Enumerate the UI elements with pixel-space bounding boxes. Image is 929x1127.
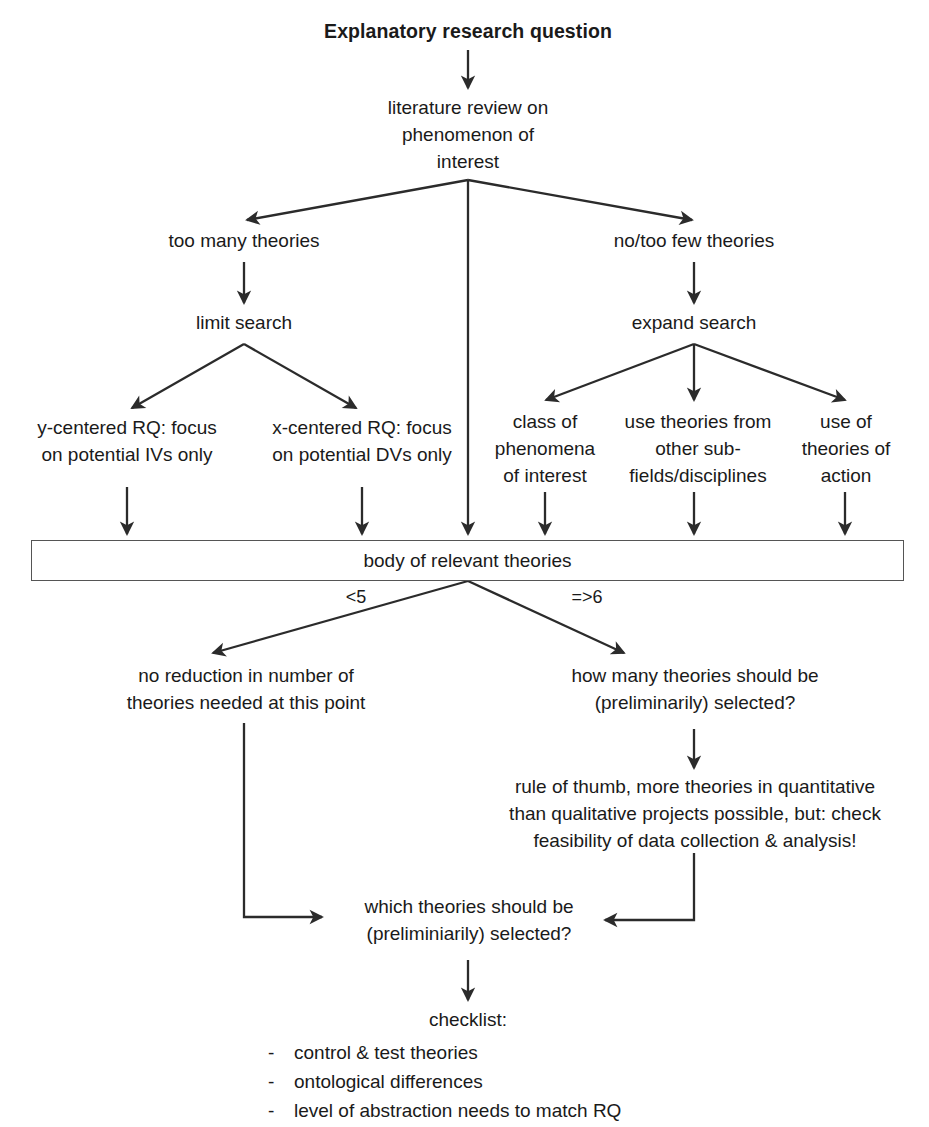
checklist-item-label: ontological differences bbox=[294, 1067, 483, 1096]
edge-no-reduction-to-which-theories bbox=[244, 723, 322, 917]
edge-expand-search-to-class-of-phenomena bbox=[546, 344, 694, 400]
node-theories-of-action: use of theories of action bbox=[783, 408, 909, 489]
node-body-of-relevant-theories: body of relevant theories bbox=[31, 540, 904, 581]
checklist-items: - control & test theories - ontological … bbox=[268, 1038, 698, 1125]
bullet-dash: - bbox=[268, 1067, 294, 1096]
checklist-item: - level of abstraction needs to match RQ bbox=[268, 1096, 698, 1125]
bullet-dash: - bbox=[268, 1038, 294, 1067]
node-too-many-theories: too many theories bbox=[134, 227, 354, 254]
edge-label-six-or-more: =>6 bbox=[557, 586, 617, 608]
edge-litreview-to-too-many bbox=[247, 180, 468, 220]
edge-limit-search-to-x-centered bbox=[244, 344, 356, 408]
flowchart-canvas: Explanatory research question literature… bbox=[0, 0, 929, 1127]
body-of-theories-label: body of relevant theories bbox=[32, 549, 903, 573]
edge-rule-of-thumb-to-which-theories bbox=[605, 853, 694, 920]
checklist-item: - control & test theories bbox=[268, 1038, 698, 1067]
node-no-too-few-theories: no/too few theories bbox=[584, 227, 804, 254]
edge-litreview-to-no-too-few bbox=[468, 180, 692, 220]
checklist-item-label: control & test theories bbox=[294, 1038, 478, 1067]
node-limit-search: limit search bbox=[154, 309, 334, 336]
node-class-of-phenomena: class of phenomena of interest bbox=[476, 408, 614, 489]
node-which-theories-selected: which theories should be (preliminiarily… bbox=[330, 893, 608, 947]
checklist-item-label: level of abstraction needs to match RQ bbox=[294, 1096, 621, 1125]
node-how-many-theories: how many theories should be (preliminari… bbox=[540, 662, 850, 716]
bullet-dash: - bbox=[268, 1096, 294, 1125]
checklist-item: - ontological differences bbox=[268, 1067, 698, 1096]
node-rule-of-thumb: rule of thumb, more theories in quantita… bbox=[474, 773, 916, 854]
node-other-subfields: use theories from other sub- fields/disc… bbox=[616, 408, 780, 489]
edge-label-less-than-five: <5 bbox=[326, 586, 386, 608]
node-x-centered-rq: x-centered RQ: focus on potential DVs on… bbox=[248, 414, 476, 468]
edge-limit-search-to-y-centered bbox=[132, 344, 244, 408]
node-root-question: Explanatory research question bbox=[249, 18, 687, 45]
node-expand-search: expand search bbox=[604, 309, 784, 336]
node-literature-review: literature review on phenomenon of inter… bbox=[358, 94, 578, 175]
node-no-reduction-needed: no reduction in number of theories neede… bbox=[96, 662, 396, 716]
edge-expand-search-to-theories-of-action bbox=[694, 344, 845, 400]
node-checklist-title: checklist: bbox=[388, 1006, 548, 1033]
node-y-centered-rq: y-centered RQ: focus on potential IVs on… bbox=[13, 414, 241, 468]
